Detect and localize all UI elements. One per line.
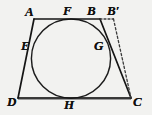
point-label-C: C bbox=[133, 95, 142, 108]
point-label-A: A bbox=[25, 5, 34, 18]
point-label-H: H bbox=[64, 98, 74, 111]
point-label-B: B bbox=[87, 4, 96, 17]
figure-canvas bbox=[0, 0, 152, 115]
point-label-F: F bbox=[63, 4, 72, 17]
point-label-E: E bbox=[21, 39, 30, 52]
point-label-G: G bbox=[94, 39, 103, 52]
point-label-B-prime: B′ bbox=[107, 4, 119, 17]
geometry-figure: A F B B′ E G D H C bbox=[0, 0, 152, 115]
point-label-D: D bbox=[7, 95, 16, 108]
